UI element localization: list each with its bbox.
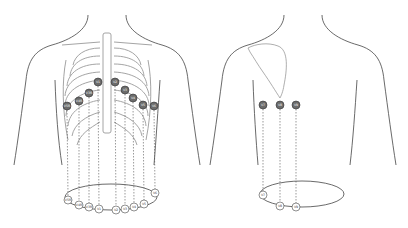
ring-electrode-v3: V3 [121, 205, 129, 213]
ring-electrode-label: V9 [294, 205, 298, 209]
ring-electrode-label: V8 [278, 204, 282, 208]
electrode-label: V6 [152, 104, 156, 108]
ecg-lead-placement-diagram: V5RV5RV4RV4RV3RV3RV1V1V2V2V3V3V4V4V5V5V6… [0, 0, 408, 228]
back-electrodes-layer: V7V7V8V8V9V9 [259, 101, 344, 211]
electrode-label: V5 [141, 103, 145, 107]
electrode-label: V5R [64, 104, 71, 108]
ring-electrode-v8: V8 [276, 202, 284, 210]
electrode-v7: V7 [259, 101, 267, 109]
electrode-v9: V9 [292, 101, 300, 109]
clavicles [62, 42, 152, 45]
back-left-outline [210, 15, 284, 165]
leader-line-v2 [115, 86, 116, 206]
sternum [103, 33, 111, 133]
ring-electrode-v5: V5 [140, 200, 148, 208]
front-right-arm-line [154, 80, 160, 165]
ring-electrode-label: V2 [114, 208, 118, 212]
electrode-label: V8 [278, 103, 282, 107]
ring-electrode-v7: V7 [259, 191, 267, 199]
front-torso [14, 15, 200, 165]
ribcage [62, 33, 152, 145]
electrode-v1: V1 [94, 78, 102, 86]
back-horizontal-plane-ring [260, 181, 344, 207]
electrode-label: V1 [96, 80, 100, 84]
ring-electrode-label: V3R [86, 205, 93, 209]
electrode-label: V3 [123, 88, 127, 92]
electrode-v3: V3 [121, 86, 129, 94]
electrode-v2: V2 [111, 78, 119, 86]
electrode-label: V4R [76, 99, 83, 103]
electrode-v5r: V5R [63, 102, 71, 110]
ring-electrode-v4r: V4R [75, 201, 83, 209]
ring-electrode-v9: V9 [292, 203, 300, 211]
ring-electrode-v4: V4 [130, 203, 138, 211]
ring-electrode-label: V7 [261, 193, 265, 197]
leader-line-v4 [133, 102, 134, 203]
electrode-label: V3R [86, 91, 93, 95]
back-right-arm-line [350, 80, 357, 165]
ring-electrode-v1: V1 [95, 205, 103, 213]
ring-electrode-label: V3 [123, 207, 127, 211]
front-left-arm-line [55, 80, 62, 165]
ring-electrode-label: V1 [97, 207, 101, 211]
electrode-v8: V8 [276, 101, 284, 109]
back-right-outline [322, 15, 396, 165]
electrode-label: V7 [261, 103, 265, 107]
electrode-v5: V5 [139, 101, 147, 109]
electrode-v4: V4 [129, 94, 137, 102]
ring-electrode-label: V4R [76, 203, 83, 207]
ring-electrode-v6: V6 [151, 189, 159, 197]
leader-line-v5r [67, 110, 68, 196]
electrode-label: V2 [113, 80, 117, 84]
electrode-label: V9 [294, 103, 298, 107]
leader-line-v1 [98, 86, 99, 205]
electrode-v6: V6 [150, 102, 158, 110]
electrode-v4r: V4R [75, 97, 83, 105]
electrode-v3r: V3R [85, 89, 93, 97]
front-right-outline [126, 15, 200, 165]
ring-electrode-v2: V2 [112, 206, 120, 214]
electrode-label: V4 [131, 96, 135, 100]
ring-electrode-label: V4 [132, 205, 136, 209]
ring-electrode-label: V6 [153, 191, 157, 195]
back-torso [210, 15, 396, 165]
ring-electrode-label: V5R [65, 198, 72, 202]
ring-electrode-v5r: V5R [64, 196, 72, 204]
leader-line-v5 [143, 109, 144, 200]
front-left-outline [14, 15, 88, 165]
ring-electrode-v3r: V3R [85, 203, 93, 211]
diagram-canvas: V5RV5RV4RV4RV3RV3RV1V1V2V2V3V3V4V4V5V5V6… [0, 0, 408, 228]
ring-electrode-label: V5 [142, 202, 146, 206]
back-left-arm-line [253, 80, 258, 165]
